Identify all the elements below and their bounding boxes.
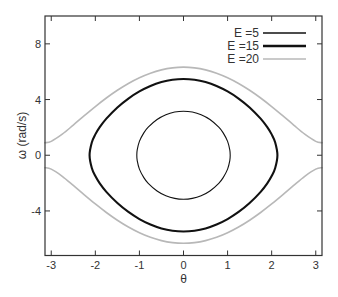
y-axis-label: ω (rad/s) xyxy=(15,112,29,159)
x-tick-label: -3 xyxy=(46,259,56,271)
y-tick-label: 8 xyxy=(35,38,41,50)
x-axis-label: θ xyxy=(180,272,187,286)
curve-e15 xyxy=(90,79,278,232)
x-tick-label: -2 xyxy=(90,259,100,271)
x-tick-label: 3 xyxy=(313,259,319,271)
legend-label-e15: E =15 xyxy=(227,39,259,53)
plot-curves xyxy=(45,67,322,243)
phase-portrait-figure: -3-2-10123-4048 θ ω (rad/s) E =5 E =15 E… xyxy=(0,0,338,297)
legend: E =5 E =15 E =20 xyxy=(227,26,306,66)
legend-label-e20: E =20 xyxy=(227,52,259,66)
x-tick-label: 0 xyxy=(180,259,186,271)
y-tick-label: 4 xyxy=(35,94,41,106)
x-tick-label: 1 xyxy=(225,259,231,271)
curve-e5 xyxy=(137,111,230,199)
x-tick-label: -1 xyxy=(135,259,145,271)
axis-tick-labels: -3-2-10123-4048 xyxy=(31,38,319,271)
axis-ticks xyxy=(45,16,322,256)
plot-frame xyxy=(45,16,322,256)
y-tick-label: -4 xyxy=(31,205,41,217)
phase-portrait-chart: -3-2-10123-4048 θ ω (rad/s) E =5 E =15 E… xyxy=(0,0,338,297)
x-tick-label: 2 xyxy=(269,259,275,271)
y-tick-label: 0 xyxy=(35,149,41,161)
legend-label-e5: E =5 xyxy=(234,26,259,40)
